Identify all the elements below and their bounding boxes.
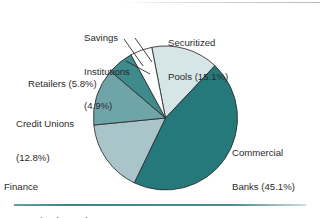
slice-label-line: Credit Unions bbox=[16, 118, 74, 129]
slice-label-line: Commercial bbox=[232, 147, 295, 158]
slice-label-line: Securitized bbox=[168, 37, 228, 48]
slice-label-commercial-banks: Commercial Banks (45.1%) bbox=[232, 124, 295, 215]
slice-label-line: Pools (15.1%) bbox=[168, 71, 228, 82]
slice-label-line: Finance bbox=[4, 181, 89, 192]
slice-label-securitized-pools: Securitized Pools (15.1%) bbox=[168, 14, 228, 105]
bottom-rule bbox=[14, 204, 306, 206]
pie-chart-figure: Savings Institutions (4.9%) Securitized … bbox=[0, 0, 321, 218]
slice-label-line: Savings bbox=[84, 32, 130, 43]
slice-label-line: Retailers (5.8%) bbox=[28, 78, 97, 89]
slice-label-line: Banks (45.1%) bbox=[232, 181, 295, 192]
slice-label-finance-companies: Finance Companies (16.3%) bbox=[4, 158, 89, 218]
slice-label-line: Companies (16.3%) bbox=[4, 215, 89, 218]
